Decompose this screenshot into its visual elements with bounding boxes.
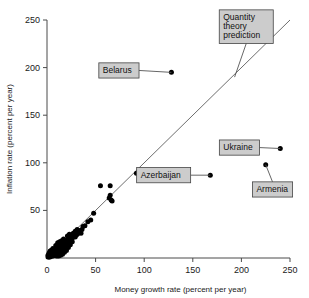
- annotation-label: Ukraine: [223, 142, 253, 152]
- y-tick-label: 150: [25, 110, 40, 120]
- annotation-label: prediction: [223, 30, 260, 40]
- annotation-leader-line: [266, 165, 273, 182]
- x-tick-label: 0: [44, 265, 49, 275]
- quantity-theory-prediction-line: [47, 20, 290, 258]
- annotation-label: Azerbaijan: [141, 170, 181, 180]
- x-tick-label: 50: [91, 265, 101, 275]
- data-point: [98, 183, 103, 188]
- data-point: [91, 211, 96, 216]
- data-point: [108, 183, 113, 188]
- annotation-label: Belarus: [103, 65, 132, 75]
- data-point: [110, 198, 115, 203]
- data-point: [47, 249, 52, 254]
- annotation-leader-line: [260, 148, 281, 149]
- annotation-leader-line: [235, 43, 247, 77]
- y-tick-label: 100: [25, 158, 40, 168]
- annotation-leader-line: [139, 70, 171, 72]
- x-tick-label: 200: [234, 265, 249, 275]
- data-point: [54, 254, 59, 259]
- y-axis-title: Inflation rate (percent per year): [5, 84, 14, 194]
- data-point: [73, 235, 78, 240]
- data-point: [75, 227, 80, 232]
- y-tick-label: 250: [25, 15, 40, 25]
- x-tick-label: 250: [282, 265, 297, 275]
- x-tick-label: 100: [137, 265, 152, 275]
- x-tick-label: 150: [185, 265, 200, 275]
- data-point: [61, 236, 66, 241]
- y-tick-label: 50: [30, 205, 40, 215]
- chart-canvas: 50100150200250050100150200250BelarusQuan…: [0, 0, 309, 298]
- annotation-label: Armenia: [256, 184, 288, 194]
- data-point: [79, 231, 84, 236]
- x-axis-title: Money growth rate (percent per year): [114, 285, 246, 294]
- scatter-chart: 50100150200250050100150200250BelarusQuan…: [0, 0, 309, 298]
- y-tick-label: 200: [25, 63, 40, 73]
